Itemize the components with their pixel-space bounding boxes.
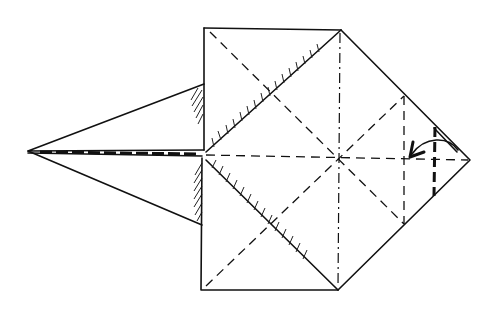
fold-line-thick — [434, 127, 435, 196]
square-base — [201, 28, 341, 290]
left-kite-flap — [28, 84, 204, 225]
origami-diagram — [0, 0, 499, 309]
hatching-upper-flap — [191, 88, 203, 124]
valley-fold-horizontal — [206, 155, 468, 160]
fold-lines — [206, 32, 468, 287]
hatching-diamond-lower — [212, 160, 307, 259]
